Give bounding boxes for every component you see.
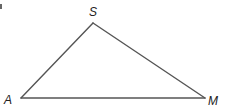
edge-artifact — [0, 4, 2, 9]
vertex-label-m: M — [208, 94, 218, 108]
vertex-label-a: A — [3, 93, 12, 107]
edge-s-m — [93, 23, 205, 98]
edge-a-s — [21, 23, 93, 98]
vertex-label-s: S — [89, 5, 97, 19]
triangle-diagram: S A M — [0, 0, 227, 108]
